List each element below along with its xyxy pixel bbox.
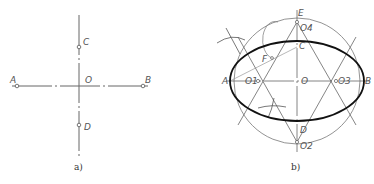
- caption-a: a): [74, 162, 83, 172]
- label-b-b: B: [365, 76, 371, 86]
- arc-bisector-top2: [226, 28, 240, 54]
- label-o4: O4: [300, 23, 313, 33]
- label-o3: O3: [338, 76, 351, 86]
- label-d: D: [84, 122, 91, 132]
- label-o-b: O: [301, 76, 308, 86]
- label-c-b: C: [299, 41, 306, 51]
- label-b: B: [145, 75, 151, 85]
- point-o4: [295, 20, 298, 23]
- label-a-b: A: [221, 76, 228, 86]
- label-e: E: [298, 8, 304, 18]
- label-o1: O1: [245, 76, 258, 86]
- point-f: [271, 57, 274, 60]
- label-o2: O2: [300, 141, 313, 151]
- label-d-b: D: [300, 125, 307, 135]
- figure-b-labels: E O4 C F A O1 O O3 B D O2 b): [221, 8, 371, 172]
- label-c: C: [83, 37, 90, 47]
- point-d: [77, 123, 81, 127]
- label-o: O: [85, 75, 92, 85]
- caption-b: b): [291, 162, 300, 172]
- line-o2-o1: [238, 37, 297, 142]
- line-a-c: [230, 47, 297, 81]
- label-a: A: [9, 75, 16, 85]
- arc-bisector-bottom2: [268, 98, 274, 118]
- ellipse-construction-diagram: A B C D O a) E O4 C F A O1 O O3: [0, 0, 374, 184]
- figure-a: A B C D O a): [9, 15, 151, 172]
- line-o4-o3: [297, 22, 356, 125]
- label-f: F: [262, 54, 268, 64]
- line-o4-o1: [238, 22, 297, 125]
- point-o2: [295, 140, 298, 143]
- point-c: [77, 45, 81, 49]
